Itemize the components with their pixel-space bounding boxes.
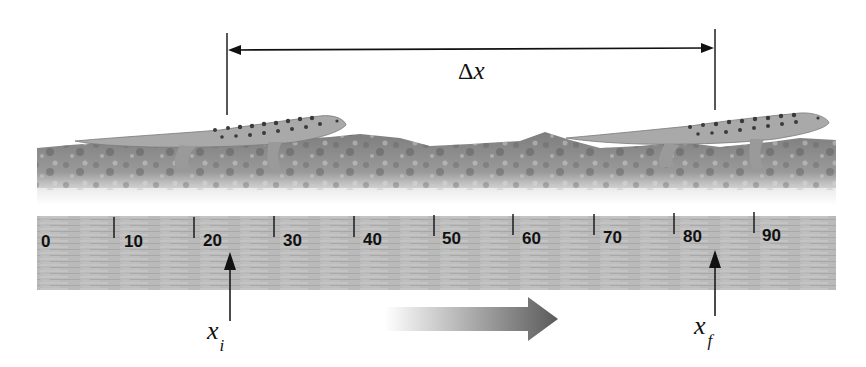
tick-label-60: 60 [522, 230, 541, 247]
tick-label-90: 90 [762, 227, 781, 244]
initial-position-label: xi [207, 318, 223, 344]
tick-label-10: 10 [124, 233, 143, 250]
initial-position-subscript: i [220, 336, 225, 355]
diagram-graphics [0, 0, 866, 367]
tick-label-80: 80 [683, 228, 702, 245]
tick-label-70: 70 [603, 229, 622, 246]
tick-label-30: 30 [283, 232, 302, 249]
displacement-variable: x [473, 57, 484, 84]
initial-position-variable: x [207, 316, 219, 345]
tick-label-20: 20 [203, 232, 222, 249]
tick-label-40: 40 [363, 231, 382, 248]
delta-symbol: Δ [458, 58, 473, 84]
final-position-label: xf [694, 313, 710, 339]
displacement-label: Δx [458, 58, 485, 83]
measuring-ruler [37, 212, 836, 290]
final-position-subscript: f [708, 331, 713, 350]
tick-label-50: 50 [442, 230, 461, 247]
final-position-variable: x [694, 311, 706, 340]
displacement-diagram: Δx 0 10 20 30 40 50 60 70 80 90 xi xf [0, 0, 866, 367]
tick-label-0: 0 [41, 233, 50, 250]
motion-direction-arrow [385, 297, 558, 341]
